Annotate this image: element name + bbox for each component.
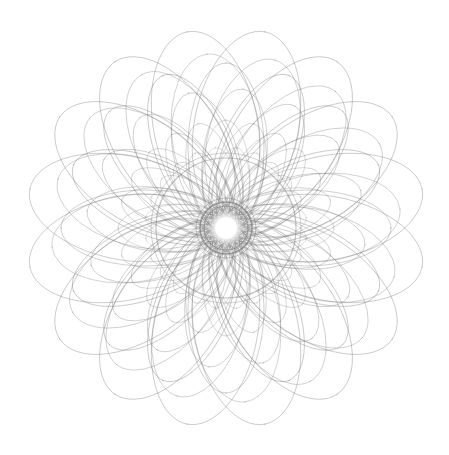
spirograph-rosette <box>0 0 449 455</box>
canvas <box>0 0 449 455</box>
